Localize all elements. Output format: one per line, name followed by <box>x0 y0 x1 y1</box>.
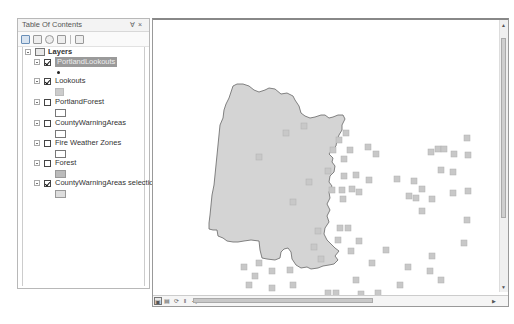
map-canvas[interactable] <box>153 20 502 296</box>
horizontal-scroll-thumb[interactable] <box>193 298 373 303</box>
scroll-down-arrow[interactable]: ▼ <box>501 284 506 290</box>
list-by-drawing-order-button[interactable] <box>21 35 30 44</box>
layer-visibility-checkbox[interactable] <box>44 99 51 106</box>
layer-visibility-checkbox[interactable] <box>44 160 51 167</box>
toc-title: Table Of Contents <box>22 20 82 29</box>
layer-item-portlandforest[interactable]: PortlandForest <box>34 97 104 107</box>
polygon-symbol-icon <box>55 130 66 138</box>
polygon-symbol-icon <box>55 109 66 117</box>
layer-visibility-checkbox[interactable] <box>44 140 51 147</box>
layer-tree: Layers PortlandLookouts Lookouts Portlan… <box>22 47 145 286</box>
point-symbol-icon <box>57 71 60 74</box>
layer-label[interactable]: CountyWarningAreas <box>55 118 126 128</box>
polygon-symbol-icon <box>55 170 66 178</box>
layer-label[interactable]: PortlandLookouts <box>55 57 117 67</box>
polygon-symbol-icon <box>55 150 66 158</box>
pin-icon[interactable]: Ɐ <box>130 21 138 28</box>
collapse-icon[interactable] <box>34 78 40 84</box>
layers-folder-icon <box>35 48 45 56</box>
toc-title-bar: Table Of Contents Ɐ× <box>18 19 149 32</box>
polygon-symbol-icon <box>55 190 66 198</box>
collapse-icon[interactable] <box>34 140 40 146</box>
layer-label[interactable]: Lookouts <box>55 76 85 86</box>
county-warning-area-polygon <box>209 84 345 269</box>
layer-visibility-checkbox[interactable] <box>44 78 51 85</box>
layer-visibility-checkbox[interactable] <box>44 59 51 66</box>
layer-item-fire-weather-zones[interactable]: Fire Weather Zones <box>34 138 121 148</box>
scroll-right-arrow[interactable]: ▶ <box>492 298 496 304</box>
close-icon[interactable]: × <box>138 21 145 28</box>
layer-label[interactable]: PortlandForest <box>55 97 104 107</box>
layer-visibility-checkbox[interactable] <box>44 180 51 187</box>
options-button[interactable] <box>75 35 84 44</box>
collapse-icon[interactable] <box>34 99 40 105</box>
layer-item-countywarningareas[interactable]: CountyWarningAreas <box>34 118 126 128</box>
data-view-button[interactable]: ▣ <box>154 297 162 305</box>
layout-view-button[interactable]: ▤ <box>163 297 171 305</box>
layer-visibility-checkbox[interactable] <box>44 120 51 127</box>
collapse-icon[interactable] <box>25 49 31 55</box>
layer-label[interactable]: Forest <box>55 158 76 168</box>
layers-root-label: Layers <box>48 47 72 57</box>
toolbar-separator <box>70 35 71 44</box>
map-status-bar: ▣ ▤ ⟳ ‖ ◀ ▶ <box>153 295 508 306</box>
collapse-icon[interactable] <box>34 120 40 126</box>
layer-item-countywarningareas-selection[interactable]: CountyWarningAreas selection <box>34 178 158 188</box>
collapse-icon[interactable] <box>34 59 40 65</box>
vertical-scrollbar[interactable]: ▲ ▼ <box>499 20 508 292</box>
layer-item-lookouts[interactable]: Lookouts <box>34 76 85 86</box>
map-view[interactable]: ▲ ▼ ▣ ▤ ⟳ ‖ ◀ ▶ <box>152 18 509 307</box>
list-by-source-button[interactable] <box>33 35 42 44</box>
pause-drawing-button[interactable]: ‖ <box>181 297 189 305</box>
list-by-selection-button[interactable] <box>57 35 66 44</box>
toc-toolbar <box>18 32 149 47</box>
collapse-icon[interactable] <box>34 180 40 186</box>
layers-root[interactable]: Layers <box>25 47 72 57</box>
vertical-scroll-thumb[interactable] <box>501 38 506 218</box>
layer-label[interactable]: CountyWarningAreas selection <box>55 178 158 188</box>
layer-item-portlandlookouts[interactable]: PortlandLookouts <box>34 57 117 67</box>
list-by-visibility-button[interactable] <box>45 35 54 44</box>
scroll-up-arrow[interactable]: ▲ <box>501 22 506 28</box>
refresh-button[interactable]: ⟳ <box>172 297 180 305</box>
layer-item-forest[interactable]: Forest <box>34 158 76 168</box>
collapse-icon[interactable] <box>34 160 40 166</box>
toc-window-controls[interactable]: Ɐ× <box>130 19 145 31</box>
square-symbol-icon <box>55 88 64 96</box>
layer-label[interactable]: Fire Weather Zones <box>55 138 121 148</box>
table-of-contents-panel: Table Of Contents Ɐ× Layers PortlandLook… <box>17 18 150 289</box>
